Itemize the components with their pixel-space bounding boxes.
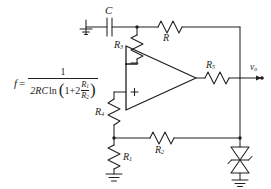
label-capacitor-C: C xyxy=(105,5,112,16)
resistor-R-zigzag xyxy=(158,21,182,33)
formula-fraction: 1 2RC ln ( 1 +2 R1 R2 ) xyxy=(28,66,97,100)
formula-inner-num: R1 xyxy=(81,80,89,90)
zener-diode-upper xyxy=(228,147,252,164)
resistor-R5-zigzag xyxy=(205,72,229,84)
opamp-body xyxy=(126,46,196,110)
formula-paren-close: ) xyxy=(90,84,96,96)
formula-numerator: 1 xyxy=(56,66,69,78)
formula-equals: = xyxy=(19,77,28,89)
label-resistor-R4: R4 xyxy=(95,107,104,118)
output-arrow xyxy=(256,76,262,81)
label-resistor-R2: R2 xyxy=(155,145,164,156)
formula-ln: ln xyxy=(48,85,59,96)
ground-symbol-zener xyxy=(232,180,248,187)
label-resistor-R: R xyxy=(163,33,169,43)
formula-2RC: 2RC xyxy=(30,85,48,96)
sub-r1: 1 xyxy=(129,155,132,162)
label-output-vo: vo xyxy=(250,63,257,73)
frequency-formula: f = 1 2RC ln ( 1 +2 R1 R2 ) xyxy=(14,58,118,108)
sub-r3: 3 xyxy=(120,43,123,50)
formula-paren-open: ( xyxy=(59,84,65,96)
zener-diode-lower xyxy=(231,160,249,173)
circuit-diagram: C R R3 R5 R4 R2 R1 vo f = 1 2RC ln xyxy=(0,0,271,189)
label-resistor-R1: R1 xyxy=(123,152,132,163)
label-resistor-R3: R3 xyxy=(114,40,123,51)
sub-r4: 4 xyxy=(101,110,104,117)
formula-denominator: 2RC ln ( 1 +2 R1 R2 ) xyxy=(28,79,97,100)
opamp-input-marks xyxy=(131,63,138,96)
resistor-R2-zigzag xyxy=(150,132,174,144)
label-resistor-R5: R5 xyxy=(206,60,215,71)
formula-inner-den: R2 xyxy=(81,91,89,101)
resistor-R1-zigzag xyxy=(108,145,120,169)
ground-symbol-r1 xyxy=(106,174,122,181)
capacitor-C xyxy=(107,18,112,36)
formula-inner-fraction: R1 R2 xyxy=(80,80,90,100)
resistor-R3-zigzag xyxy=(131,35,143,59)
sub-r2: 2 xyxy=(161,148,164,155)
sub-vo: o xyxy=(254,66,257,72)
sub-r5: 5 xyxy=(212,63,215,70)
formula-plus-two: +2 xyxy=(70,85,81,96)
